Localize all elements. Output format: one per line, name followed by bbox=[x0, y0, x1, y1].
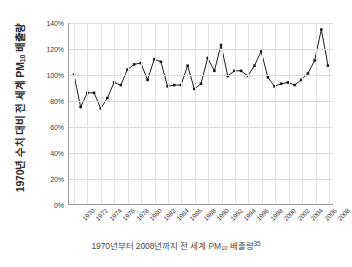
data-point-marker bbox=[320, 28, 323, 31]
x-axis-tick-labels: 1970197219741976197819801982198419861988… bbox=[68, 207, 333, 233]
gridline-horizontal bbox=[69, 101, 333, 102]
data-point-marker bbox=[280, 82, 283, 85]
gridline-vertical bbox=[195, 23, 196, 204]
data-point-marker bbox=[119, 84, 122, 87]
gridline-vertical bbox=[262, 23, 263, 204]
chart-figure: 1970년 수치 대비 전 세계 PM10 배출량 0%20%40%60%80%… bbox=[0, 0, 352, 267]
gridline-vertical bbox=[155, 23, 156, 204]
x-axis-tick-label: 1984 bbox=[175, 207, 190, 222]
y-axis-tick-label: 40% bbox=[30, 150, 64, 157]
caption-main: 1970년부터 2008년까지 전 세계 PM bbox=[91, 241, 221, 251]
x-axis-tick-label: 1982 bbox=[162, 207, 177, 222]
data-point-marker bbox=[173, 84, 176, 87]
x-axis-tick-label: 1988 bbox=[202, 207, 217, 222]
gridline-horizontal bbox=[69, 205, 333, 206]
x-axis-tick-label: 2002 bbox=[296, 207, 311, 222]
gridline-vertical bbox=[87, 23, 88, 204]
gridline-horizontal bbox=[69, 127, 333, 128]
data-point-marker bbox=[160, 60, 163, 63]
y-axis-tick-label: 100% bbox=[30, 72, 64, 79]
x-axis-tick-label: 1972 bbox=[95, 207, 110, 222]
gridline-vertical bbox=[248, 23, 249, 204]
data-point-marker bbox=[133, 63, 136, 66]
x-axis-tick-label: 1978 bbox=[135, 207, 150, 222]
x-axis-tick-label: 1970 bbox=[81, 207, 96, 222]
y-axis-title-tail: 배출량 bbox=[15, 23, 27, 55]
figure-caption: 1970년부터 2008년까지 전 세계 PM10 배출량35 bbox=[0, 239, 352, 251]
x-axis-tick-label: 2000 bbox=[282, 207, 297, 222]
data-point-marker bbox=[79, 106, 82, 109]
data-point-marker bbox=[213, 70, 216, 73]
gridline-horizontal bbox=[69, 23, 333, 24]
x-axis-tick-label: 1990 bbox=[215, 207, 230, 222]
x-axis-tick-label: 2008 bbox=[336, 207, 351, 222]
gridline-vertical bbox=[101, 23, 102, 204]
x-axis-tick-label: 1994 bbox=[242, 207, 257, 222]
gridline-vertical bbox=[275, 23, 276, 204]
data-point-marker bbox=[186, 64, 189, 67]
gridline-vertical bbox=[316, 23, 317, 204]
gridline-vertical bbox=[208, 23, 209, 204]
gridline-horizontal bbox=[69, 49, 333, 50]
plot-area bbox=[68, 23, 333, 205]
gridline-vertical bbox=[222, 23, 223, 204]
x-axis-tick-label: 1998 bbox=[269, 207, 284, 222]
gridline-horizontal bbox=[69, 75, 333, 76]
y-axis-title-main: 1970년 수치 대비 전 세계 PM bbox=[15, 62, 27, 192]
series-path bbox=[74, 29, 328, 108]
data-point-marker bbox=[200, 82, 203, 85]
y-axis-tick-label: 60% bbox=[30, 124, 64, 131]
data-point-marker bbox=[267, 76, 270, 79]
series-line-pm10 bbox=[69, 23, 333, 204]
gridline-vertical bbox=[168, 23, 169, 204]
caption-tail: 배출량 bbox=[228, 241, 254, 251]
data-point-marker bbox=[93, 92, 96, 95]
x-axis-tick-label: 2006 bbox=[323, 207, 338, 222]
x-axis-tick-label: 1996 bbox=[256, 207, 271, 222]
x-axis-tick-label: 1974 bbox=[108, 207, 123, 222]
gridline-vertical bbox=[181, 23, 182, 204]
x-axis-tick-label: 1980 bbox=[148, 207, 163, 222]
gridline-vertical bbox=[235, 23, 236, 204]
gridline-vertical bbox=[114, 23, 115, 204]
y-axis-tick-label: 20% bbox=[30, 176, 64, 183]
gridline-horizontal bbox=[69, 179, 333, 180]
data-point-marker bbox=[106, 97, 109, 100]
data-point-marker bbox=[253, 64, 256, 67]
gridline-vertical bbox=[302, 23, 303, 204]
y-axis-tick-labels: 0%20%40%60%80%100%120%140% bbox=[28, 23, 64, 205]
gridline-vertical bbox=[289, 23, 290, 204]
caption-footnote: 35 bbox=[254, 240, 261, 247]
data-point-marker bbox=[240, 70, 243, 73]
y-axis-tick-label: 0% bbox=[30, 202, 64, 209]
y-axis-tick-label: 80% bbox=[30, 98, 64, 105]
data-point-marker bbox=[293, 84, 296, 87]
gridline-vertical bbox=[74, 23, 75, 204]
gridline-vertical bbox=[329, 23, 330, 204]
y-axis-tick-label: 120% bbox=[30, 46, 64, 53]
x-axis-tick-label: 1992 bbox=[229, 207, 244, 222]
y-axis-title-subscript: 10 bbox=[20, 55, 27, 62]
gridline-vertical bbox=[128, 23, 129, 204]
x-axis-tick-label: 1986 bbox=[188, 207, 203, 222]
data-point-marker bbox=[146, 79, 149, 82]
y-axis-tick-label: 140% bbox=[30, 20, 64, 27]
gridline-horizontal bbox=[69, 153, 333, 154]
gridline-vertical bbox=[141, 23, 142, 204]
x-axis-tick-label: 1976 bbox=[121, 207, 136, 222]
x-axis-tick-label: 2004 bbox=[309, 207, 324, 222]
